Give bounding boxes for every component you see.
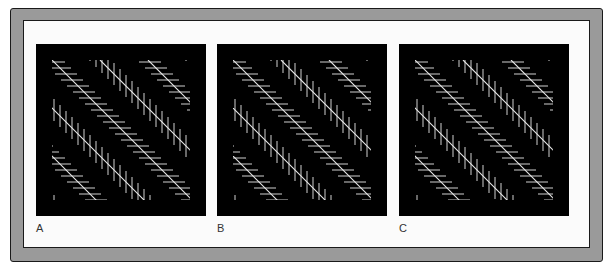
diagonal-line xyxy=(415,60,569,216)
diagonal-line xyxy=(281,60,387,216)
diagonal-line xyxy=(217,60,241,216)
diagonal-line xyxy=(511,60,569,216)
diagonal-line xyxy=(559,60,569,216)
illusion-panel-a xyxy=(36,44,206,216)
diagonal-line xyxy=(52,60,206,216)
diagonal-line xyxy=(196,60,206,216)
panel-label-c: C xyxy=(399,222,407,234)
diagonal-line xyxy=(233,60,387,216)
diagonal-line xyxy=(100,60,206,216)
panel-label-b: B xyxy=(217,222,224,234)
diagonal-line xyxy=(399,60,423,216)
diagonal-line xyxy=(148,60,206,216)
illusion-panel-c xyxy=(399,44,569,216)
diagonal-line xyxy=(463,60,569,216)
diagonal-line xyxy=(36,60,60,216)
diagonal-line xyxy=(329,60,387,216)
panel-label-a: A xyxy=(36,222,43,234)
illusion-panel-b xyxy=(217,44,387,216)
diagonal-line xyxy=(377,60,387,216)
